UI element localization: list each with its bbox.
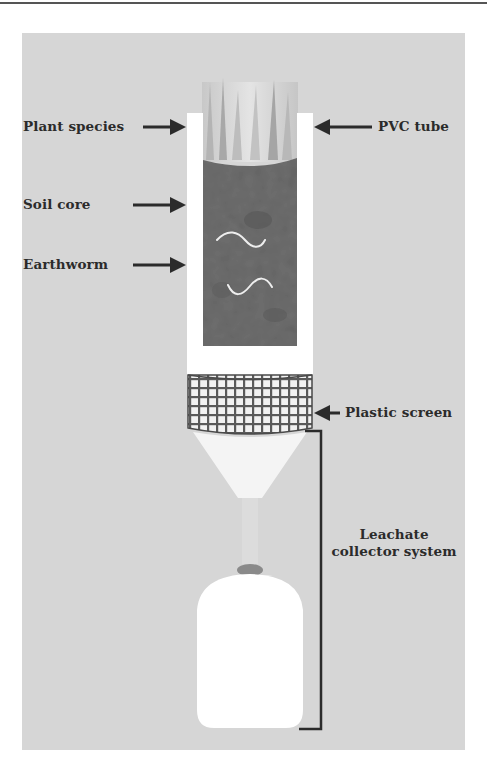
label-leachate-line1: Leachate (324, 526, 464, 543)
soil-core (203, 158, 297, 346)
soil-core-arrow (133, 197, 186, 213)
plant-species-arrow (143, 119, 186, 135)
label-leachate-collector: Leachate collector system (324, 526, 464, 560)
label-plant-species: Plant species (23, 118, 124, 134)
pvc-tube-arrow (314, 119, 372, 135)
label-leachate-line2: collector system (324, 543, 464, 560)
funnel (193, 432, 307, 564)
plastic-screen-arrow (314, 405, 340, 421)
collection-bottle (197, 564, 303, 728)
label-pvc-tube: PVC tube (378, 118, 449, 134)
earthworm-arrow (133, 257, 186, 273)
label-soil-core: Soil core (23, 196, 91, 212)
plant-species-shoots (202, 78, 298, 162)
label-earthworm: Earthworm (23, 256, 108, 272)
column-illustration (0, 0, 487, 767)
label-plastic-screen: Plastic screen (345, 404, 452, 420)
plastic-screen (188, 375, 312, 434)
